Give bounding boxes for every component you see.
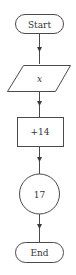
- edge-start-to-input: [37, 33, 42, 64]
- output-label: 17: [34, 190, 46, 200]
- end-label: End: [30, 248, 48, 258]
- end-node: End: [16, 243, 64, 263]
- process-label: +14: [31, 127, 50, 137]
- start-node: Start: [16, 15, 64, 34]
- output-node: 17: [20, 174, 60, 214]
- start-label: Start: [28, 20, 51, 30]
- input-node: x: [8, 66, 71, 92]
- input-label: x: [37, 74, 42, 84]
- edge-output-to-end: [37, 214, 42, 242]
- edge-input-to-process: [37, 91, 42, 117]
- process-node: +14: [18, 118, 64, 147]
- edge-process-to-output: [37, 146, 42, 174]
- flowchart: Start x +14 17 End: [0, 0, 76, 275]
